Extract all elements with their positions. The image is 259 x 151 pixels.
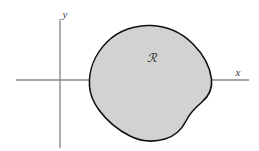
diagram-svg: ℛ x y: [0, 0, 259, 151]
x-axis-label: x: [235, 66, 241, 78]
figure-canvas: ℛ x y: [0, 0, 259, 151]
y-axis-label: y: [62, 8, 68, 20]
region-label: ℛ: [147, 51, 158, 65]
region-shape: [89, 25, 211, 140]
